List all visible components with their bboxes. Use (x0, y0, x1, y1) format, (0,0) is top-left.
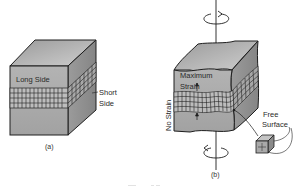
block-a-front-grid (10, 88, 68, 108)
label-free-surface-line1: Free (263, 110, 278, 119)
label-free-surface-line2: Surface (262, 120, 288, 129)
torsion-strain-diagram: Long Side Short Side (a) (0, 0, 301, 189)
label-long-side: Long Side (16, 75, 50, 84)
panel-a-caption: (a) (45, 143, 54, 151)
label-short-side-line2: Side (99, 99, 114, 108)
block-b-front-grid (174, 90, 234, 113)
label-maximum-strain-line1: Maximum (180, 71, 213, 80)
panel-b-caption: (b) (211, 171, 220, 179)
small-element-cube (256, 135, 274, 153)
free-surface-point-marker (233, 109, 236, 112)
panel-a-undeformed-block: Long Side Short Side (a) (10, 40, 118, 151)
faint-figure-caption-marks (128, 185, 160, 186)
label-short-side-line1: Short (99, 88, 118, 97)
panel-b-twisted-block: Maximum Strain No Strain Free Surface (b… (164, 0, 292, 179)
free-surface-leader-curve-1 (274, 127, 290, 141)
label-maximum-strain-line2: Strain (180, 82, 200, 91)
label-no-strain: No Strain (164, 100, 173, 131)
